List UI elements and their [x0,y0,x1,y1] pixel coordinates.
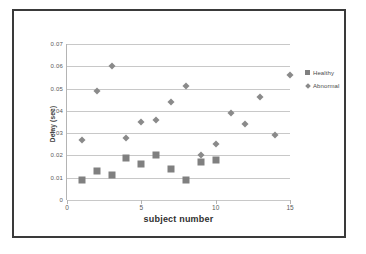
data-point-healthy[interactable] [182,176,189,183]
x-axis-tick-label: 0 [65,204,69,211]
data-point-healthy[interactable] [93,168,100,175]
y-axis-tick-label: 0.02 [51,152,63,158]
y-axis-tick-label: 0.05 [51,86,63,92]
data-point-abnormal[interactable] [168,98,175,105]
y-axis-title: Delay (sec) [49,105,56,142]
data-point-abnormal[interactable] [123,134,130,141]
data-point-abnormal[interactable] [138,118,145,125]
y-axis-tick-label: 0.07 [51,41,63,47]
data-point-healthy[interactable] [153,152,160,159]
gridline-y [67,66,290,67]
gridline-y [67,111,290,112]
x-axis-tick-label: 15 [286,204,293,211]
legend-label-abnormal: Abnormal [313,83,339,89]
legend-item-abnormal[interactable]: Abnormal [305,79,366,92]
y-axis-tick-label: 0.06 [51,63,63,69]
scatter-chart: 00.010.020.030.040.050.060.07051015 Dela… [14,11,344,236]
data-point-healthy[interactable] [197,159,204,166]
data-point-abnormal[interactable] [242,121,249,128]
x-axis-tick-label: 10 [212,204,219,211]
data-point-healthy[interactable] [168,165,175,172]
chart-figure-frame: 00.010.020.030.040.050.060.07051015 Dela… [12,9,346,238]
data-point-abnormal[interactable] [108,63,115,70]
gridline-y [67,178,290,179]
data-point-abnormal[interactable] [212,141,219,148]
legend-square-marker-icon [305,70,310,75]
data-point-abnormal[interactable] [257,94,264,101]
chart-legend: Healthy Abnormal [305,66,366,92]
y-axis-tick-label: 0.01 [51,175,63,181]
data-point-healthy[interactable] [123,154,130,161]
y-axis-line [66,44,67,200]
data-point-healthy[interactable] [78,176,85,183]
data-point-abnormal[interactable] [227,110,234,117]
legend-item-healthy[interactable]: Healthy [305,66,366,79]
x-axis-tick-label: 5 [140,204,144,211]
legend-diamond-marker-icon [305,83,311,89]
data-point-healthy[interactable] [138,161,145,168]
gridline-y [67,155,290,156]
data-point-abnormal[interactable] [78,136,85,143]
x-axis-title: subject number [67,214,290,224]
plot-area: 00.010.020.030.040.050.060.07051015 [67,44,290,200]
legend-label-healthy: Healthy [313,70,334,76]
gridline-y [67,200,290,201]
y-axis-tick-label: 0 [59,197,63,203]
gridline-y [67,89,290,90]
gridline-y [67,44,290,45]
data-point-healthy[interactable] [108,172,115,179]
gridline-y [67,133,290,134]
data-point-abnormal[interactable] [153,116,160,123]
data-point-abnormal[interactable] [286,72,293,79]
data-point-healthy[interactable] [212,156,219,163]
